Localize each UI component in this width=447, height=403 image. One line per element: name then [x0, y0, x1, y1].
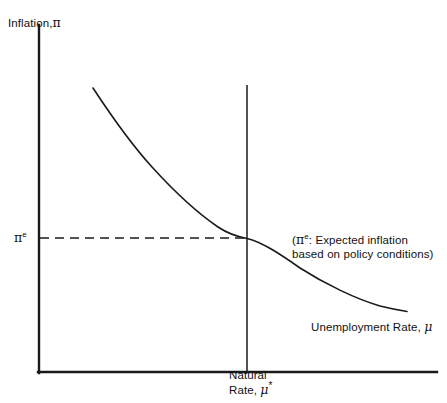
phillips-curve-figure: Inflation,π πe (πe: Expected inflationba… — [0, 0, 447, 403]
phillips-curve-path — [93, 88, 407, 312]
x-axis-title-text: Unemployment Rate, — [311, 321, 421, 333]
annotation-line2: based on policy conditions) — [292, 248, 433, 260]
annotation-line1-rest: : Expected inflation — [309, 234, 408, 246]
y-axis-title-text: Inflation, — [8, 17, 52, 29]
natural-rate-label: NaturalRate, μ* — [229, 369, 273, 397]
pi-icon: π — [52, 15, 60, 30]
natural-rate-line2-text: Rate, — [229, 384, 257, 396]
expected-inflation-annotation: (πe: Expected inflationbased on policy c… — [292, 233, 433, 261]
y-axis-title: Inflation,π — [8, 16, 61, 31]
x-axis-title: Unemployment Rate, μ — [311, 320, 432, 335]
superscript-e: e — [22, 230, 27, 239]
mu-icon: μ — [424, 319, 432, 334]
asterisk-icon: * — [269, 380, 273, 391]
y-tick-label-expected-inflation: πe — [14, 231, 27, 246]
natural-rate-line1: Natural — [229, 369, 267, 381]
plot-canvas — [0, 0, 447, 403]
mu-icon: μ — [260, 382, 268, 397]
